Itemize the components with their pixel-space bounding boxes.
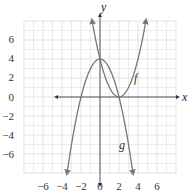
x-tick-label: 0	[97, 180, 103, 192]
y-tick-label: 6	[9, 33, 15, 45]
y-tick-labels: 6 4 2 0 −2 −4 −6	[2, 33, 14, 160]
y-tick-label: 0	[9, 91, 15, 103]
x-tick-label: 6	[154, 180, 160, 192]
label-g: g	[119, 138, 125, 152]
x-tick-label: 4	[135, 180, 141, 192]
x-tick-label: −6	[37, 180, 49, 192]
y-tick-label: 4	[9, 52, 15, 64]
y-tick-label: 2	[9, 71, 15, 83]
y-tick-label: −4	[2, 129, 14, 141]
x-tick-labels: −6 −4 −2 0 2 4 6	[37, 180, 160, 192]
x-tick-label: −4	[56, 180, 68, 192]
x-tick-label: 2	[116, 180, 122, 192]
y-tick-label: −6	[2, 148, 14, 160]
y-tick-label: −2	[2, 110, 14, 122]
y-axis-label: y	[100, 0, 107, 14]
x-axis-label: x	[181, 90, 188, 104]
x-tick-label: −2	[75, 180, 87, 192]
coordinate-plane: x y f g 6 4 2 0 −2 −4 −6 −6 −4 −2 0 2 4 …	[0, 0, 194, 193]
